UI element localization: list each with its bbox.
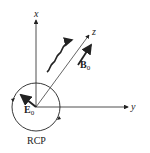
b0-subscript: 0 bbox=[87, 64, 91, 72]
rcp-diagram: x y z B0 E0 RCP bbox=[0, 0, 150, 153]
wave-propagation-icon bbox=[47, 40, 72, 72]
z-axis bbox=[36, 35, 89, 107]
e0-subscript: 0 bbox=[31, 109, 35, 117]
rotation-arrow-icon bbox=[11, 98, 15, 102]
x-axis-label: x bbox=[33, 8, 39, 19]
z-axis-label: z bbox=[91, 26, 96, 37]
e0-label: E0 bbox=[24, 104, 35, 117]
polarization-label: RCP bbox=[27, 135, 46, 146]
b0-label: B0 bbox=[80, 59, 91, 72]
y-axis-label: y bbox=[130, 101, 136, 112]
